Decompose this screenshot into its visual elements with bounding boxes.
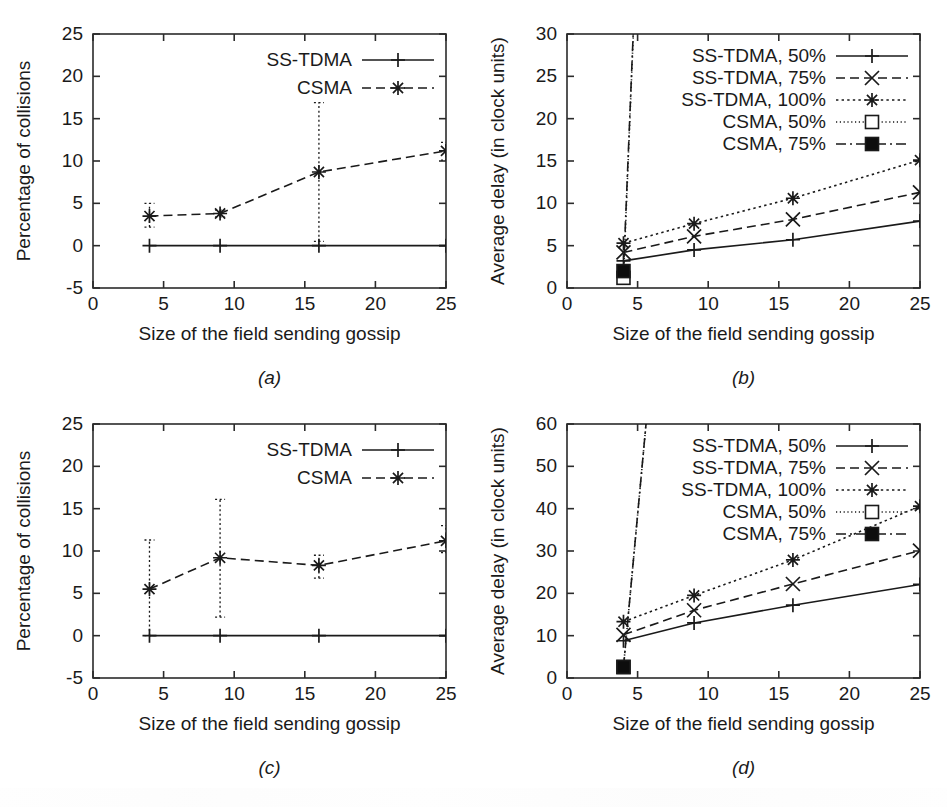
legend-item[interactable]: CSMA, 50% [723, 111, 908, 132]
y-tick-label: 0 [72, 235, 83, 256]
chart-svg-c: 0510152025-50510152025Size of the field … [0, 390, 473, 790]
y-axis-title: Average delay (in clock units) [487, 37, 508, 285]
x-axis-title: Size of the field sending gossip [139, 713, 401, 734]
legend-item[interactable]: CSMA, 75% [723, 523, 908, 544]
y-tick-label: 5 [546, 235, 557, 256]
page-scan-artifact [0, 788, 947, 807]
y-tick-label: 10 [62, 540, 83, 561]
legend-label: SS-TDMA, 50% [692, 45, 826, 66]
legend-item[interactable]: CSMA [297, 77, 434, 98]
series-line-offscale [623, 390, 667, 667]
marker-star [391, 81, 405, 95]
legend-item[interactable]: SS-TDMA, 50% [692, 45, 908, 66]
panel-sub-label: (c) [258, 757, 280, 778]
legend-label: CSMA, 50% [723, 111, 827, 132]
legend-label: CSMA [297, 467, 352, 488]
marker-cross [786, 212, 800, 226]
marker-plus [786, 598, 800, 612]
legend-item[interactable]: SS-TDMA, 100% [681, 479, 908, 500]
x-tick-label: 10 [698, 293, 719, 314]
series-line [623, 192, 920, 252]
marker-plus [142, 629, 156, 643]
x-tick-label: 15 [768, 683, 789, 704]
panel-sub-label: (b) [732, 367, 755, 388]
x-tick-label: 20 [839, 293, 860, 314]
marker-square-open [866, 116, 879, 129]
y-tick-label: 40 [536, 498, 557, 519]
plot-area [142, 499, 453, 642]
series-line-offscale [623, 0, 642, 271]
legend: SS-TDMACSMA [267, 439, 435, 488]
marker-star [786, 553, 800, 567]
marker-plus [213, 239, 227, 253]
legend-item[interactable]: SS-TDMA, 100% [681, 89, 908, 110]
x-tick-label: 15 [294, 683, 315, 704]
x-tick-label: 10 [224, 293, 245, 314]
y-axis-title: Average delay (in clock units) [487, 427, 508, 675]
y-tick-label: -5 [66, 277, 83, 298]
legend-item[interactable]: SS-TDMA [267, 49, 435, 70]
marker-plus [391, 53, 405, 67]
plot-frame [93, 424, 446, 678]
y-tick-label: 20 [536, 108, 557, 129]
marker-star [439, 534, 453, 548]
marker-plus [439, 239, 453, 253]
marker-square-filled [866, 138, 879, 151]
marker-star [687, 217, 701, 231]
x-tick-label: 10 [224, 683, 245, 704]
x-tick-label: 5 [632, 293, 643, 314]
legend: SS-TDMACSMA [267, 49, 435, 98]
chart-panel-d: 05101520250102030405060Size of the field… [474, 390, 947, 790]
chart-svg-b: 0510152025051015202530Size of the field … [474, 0, 947, 400]
marker-plus [312, 629, 326, 643]
y-tick-label: 5 [72, 192, 83, 213]
legend-item[interactable]: SS-TDMA, 75% [692, 457, 908, 478]
marker-plus [786, 233, 800, 247]
marker-plus [687, 616, 701, 630]
legend: SS-TDMA, 50%SS-TDMA, 75%SS-TDMA, 100%CSM… [681, 435, 908, 544]
x-tick-label: 25 [435, 683, 456, 704]
chart-svg-a: 0510152025-50510152025Size of the field … [0, 0, 473, 400]
error-bars-csma [144, 103, 451, 242]
error-bars-csma [144, 499, 451, 635]
legend-item[interactable]: CSMA [297, 467, 434, 488]
marker-star [865, 93, 879, 107]
series-line [149, 151, 446, 216]
marker-plus [865, 49, 879, 63]
marker-star [142, 582, 156, 596]
legend-label: SS-TDMA, 100% [681, 479, 826, 500]
series-ss-tdma-100 [616, 153, 927, 250]
marker-star [213, 206, 227, 220]
x-tick-label: 5 [158, 293, 169, 314]
chart-panel-c: 0510152025-50510152025Size of the field … [0, 390, 473, 790]
series-ss-tdma-50 [616, 577, 927, 647]
y-tick-label: 20 [62, 455, 83, 476]
y-axis: -50510152025 [62, 23, 446, 298]
series-ss-tdma [142, 239, 453, 253]
marker-star [439, 144, 453, 158]
y-tick-label: -5 [66, 667, 83, 688]
marker-square-filled [866, 528, 879, 541]
legend-item[interactable]: SS-TDMA, 75% [692, 67, 908, 88]
legend-item[interactable]: CSMA, 50% [723, 501, 908, 522]
legend-item[interactable]: CSMA, 75% [723, 133, 908, 154]
series-csma-75 [617, 0, 643, 278]
y-axis-title: Percentage of collisions [13, 61, 34, 262]
marker-plus [865, 439, 879, 453]
legend-item[interactable]: SS-TDMA, 50% [692, 435, 908, 456]
x-tick-label: 0 [562, 683, 573, 704]
marker-cross [786, 577, 800, 591]
x-tick-label: 15 [768, 293, 789, 314]
panel-sub-label: (a) [258, 367, 281, 388]
legend-label: SS-TDMA, 50% [692, 435, 826, 456]
legend-item[interactable]: SS-TDMA [267, 439, 435, 460]
y-tick-label: 0 [546, 277, 557, 298]
marker-square-filled [617, 265, 630, 278]
marker-star [913, 153, 927, 167]
legend-label: CSMA, 50% [723, 501, 827, 522]
legend-label: SS-TDMA, 75% [692, 457, 826, 478]
x-tick-label: 0 [88, 683, 99, 704]
y-tick-label: 10 [536, 625, 557, 646]
chart-panel-a: 0510152025-50510152025Size of the field … [0, 0, 473, 400]
legend-label: SS-TDMA, 100% [681, 89, 826, 110]
